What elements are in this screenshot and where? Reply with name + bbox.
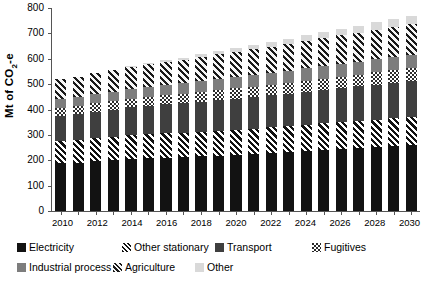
legend-item-industrial[interactable]: Industrial process <box>17 257 111 277</box>
stacked-bar[interactable] <box>195 54 206 211</box>
y-axis-tick-label: 0 <box>38 206 44 216</box>
stacked-bar[interactable] <box>266 42 277 211</box>
bar-slot <box>210 8 228 211</box>
legend-swatch-transport-icon <box>215 243 224 252</box>
stacked-bar[interactable] <box>90 73 101 211</box>
stacked-bar[interactable] <box>318 32 329 211</box>
bar-segment-fugitives <box>55 108 66 116</box>
stacked-bar[interactable] <box>125 66 136 211</box>
bar-segment-otherstationary <box>55 141 66 163</box>
bar-segment-electricity <box>266 153 277 211</box>
bar-slot <box>245 8 263 211</box>
stacked-bar[interactable] <box>73 77 84 211</box>
y-axis-tick-mark <box>48 211 52 212</box>
stacked-bar[interactable] <box>143 63 154 211</box>
stacked-bar[interactable] <box>388 19 399 211</box>
y-axis-tick-mark <box>48 84 52 85</box>
bar-segment-industrial <box>318 66 329 78</box>
x-axis-tick-label: 2012 <box>87 216 108 230</box>
x-axis-tick-label: 2026 <box>330 216 351 230</box>
legend-swatch-agriculture-icon <box>113 263 122 272</box>
y-axis-tick-label: 800 <box>27 3 44 13</box>
stacked-bar[interactable] <box>248 45 259 211</box>
bar-segment-otherstationary <box>178 133 189 158</box>
bar-segment-industrial <box>178 83 189 93</box>
y-axis-tick-mark <box>48 59 52 60</box>
y-axis-tick-label: 600 <box>27 54 44 64</box>
legend-item-fugitives[interactable]: Fugitives <box>312 237 366 257</box>
bar-segment-fugitives <box>143 97 154 106</box>
stacked-bar[interactable] <box>301 35 312 211</box>
legend-item-electricity[interactable]: Electricity <box>17 237 74 257</box>
bar-segment-industrial <box>301 68 312 80</box>
bar-segment-agriculture <box>371 30 382 59</box>
x-axis-tick-label: 2028 <box>364 216 385 230</box>
bar-segment-electricity <box>388 146 399 211</box>
stacked-bar[interactable] <box>230 48 241 211</box>
bar-segment-electricity <box>195 156 206 211</box>
legend-item-transport[interactable]: Transport <box>215 237 272 257</box>
bar-segment-transport <box>248 97 259 128</box>
bar-slot <box>350 8 368 211</box>
bar-segment-industrial <box>283 71 294 83</box>
stacked-bar[interactable] <box>371 22 382 211</box>
bar-segment-industrial <box>213 79 224 90</box>
legend-item-otherstationary[interactable]: Other stationary <box>122 237 209 257</box>
bar-segment-other <box>353 26 364 33</box>
bar-segment-transport <box>160 104 171 133</box>
bar-segment-electricity <box>108 160 119 211</box>
bar-segment-fugitives <box>125 99 136 108</box>
bar-slot <box>140 8 158 211</box>
x-axis-tick-label: 2020 <box>225 216 246 230</box>
bar-segment-fugitives <box>195 92 206 102</box>
y-axis-tick-mark <box>48 33 52 34</box>
bar-slot <box>70 8 88 211</box>
legend-label: Electricity <box>29 237 74 257</box>
bar-slot <box>403 8 421 211</box>
stacked-bar[interactable] <box>160 60 171 211</box>
y-axis-tick-labels: 0100200300400500600700800 <box>22 0 48 220</box>
bar-slot <box>368 8 386 211</box>
bar-segment-industrial <box>230 77 241 88</box>
bar-segment-electricity <box>248 154 259 211</box>
bar-segment-industrial <box>266 73 277 85</box>
legend-label: Agriculture <box>125 257 175 277</box>
stacked-bar[interactable] <box>283 39 294 211</box>
stacked-bar[interactable] <box>336 29 347 211</box>
bar-segment-fugitives <box>388 70 399 82</box>
stacked-bar[interactable] <box>55 79 66 211</box>
stacked-bar[interactable] <box>108 70 119 211</box>
x-axis-tick-label: 2016 <box>156 216 177 230</box>
bar-segment-agriculture <box>143 64 154 87</box>
bar-slot <box>105 8 123 211</box>
bar-slot <box>262 8 280 211</box>
bar-slot <box>297 8 315 211</box>
bar-segment-otherstationary <box>90 138 101 161</box>
chart-figure: Mt of CO2-e 0100200300400500600700800 20… <box>0 0 425 283</box>
bar-segment-transport <box>283 94 294 126</box>
stacked-bar[interactable] <box>353 26 364 211</box>
bar-segment-transport <box>73 114 84 140</box>
bar-segment-otherstationary <box>318 123 329 150</box>
bar-segment-agriculture <box>230 52 241 77</box>
y-axis-tick-mark <box>48 186 52 187</box>
stacked-bar[interactable] <box>178 58 189 211</box>
stacked-bar[interactable] <box>406 16 417 211</box>
bar-segment-fugitives <box>283 83 294 94</box>
y-axis-tick-mark <box>48 110 52 111</box>
bar-segment-industrial <box>353 62 364 75</box>
bar-segment-fugitives <box>90 103 101 111</box>
stacked-bar[interactable] <box>213 51 224 211</box>
bar-segment-transport <box>195 102 206 132</box>
bar-segment-industrial <box>73 97 84 106</box>
bar-slot <box>385 8 403 211</box>
legend-item-other[interactable]: Other <box>195 257 233 277</box>
bar-segment-agriculture <box>125 67 136 89</box>
y-axis-tick-label: 500 <box>27 79 44 89</box>
y-axis-title: Mt of CO2-e <box>3 31 18 141</box>
bar-segment-electricity <box>353 148 364 211</box>
bar-segment-electricity <box>213 156 224 211</box>
legend-item-agriculture[interactable]: Agriculture <box>113 257 175 277</box>
legend-swatch-electricity-icon <box>17 243 26 252</box>
bar-segment-otherstationary <box>353 121 364 148</box>
